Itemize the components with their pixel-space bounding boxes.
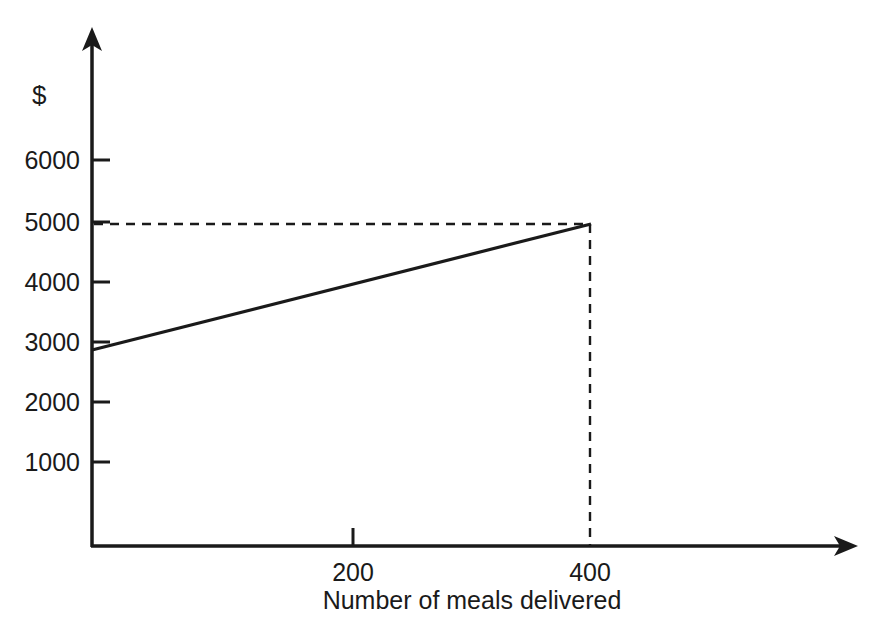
y-tick-label-5000: 5000 (0, 210, 80, 235)
y-tick-label-3000: 3000 (0, 330, 80, 355)
chart-background (0, 0, 877, 629)
x-axis-title: Number of meals delivered (323, 588, 622, 613)
y-tick-label-6000: 6000 (0, 148, 80, 173)
chart-canvas (0, 0, 877, 629)
y-axis-title: $ (32, 82, 46, 108)
x-tick-label-400: 400 (569, 560, 611, 585)
y-tick-label-1000: 1000 (0, 450, 80, 475)
y-tick-label-4000: 4000 (0, 270, 80, 295)
x-tick-label-200: 200 (332, 560, 374, 585)
chart-container: 6000 5000 4000 3000 2000 1000 200 400 $ … (0, 0, 877, 629)
y-tick-label-2000: 2000 (0, 390, 80, 415)
